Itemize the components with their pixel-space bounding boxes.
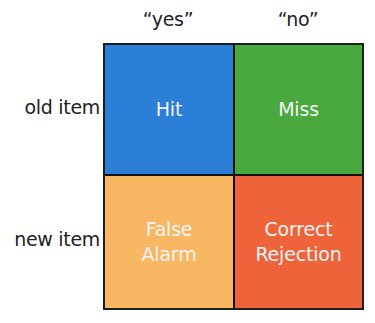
cell-miss: Miss	[235, 45, 362, 176]
row-label-old-item: old item	[24, 96, 100, 118]
column-label-no: “no”	[233, 8, 363, 30]
column-label-yes: “yes”	[103, 8, 233, 30]
cell-correct-rejection: Correct Rejection	[235, 176, 362, 308]
signal-detection-matrix: Hit Miss False Alarm Correct Rejection	[103, 43, 364, 310]
row-label-new-item: new item	[14, 228, 100, 250]
cell-hit: Hit	[105, 45, 235, 176]
cell-false-alarm: False Alarm	[105, 176, 235, 308]
